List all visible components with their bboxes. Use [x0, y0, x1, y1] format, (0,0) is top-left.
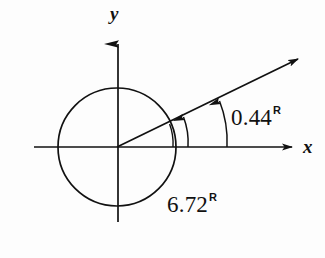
angle-diagram-figure: y x 0.44R 6.72R: [0, 0, 325, 258]
angle-arc-outer: [220, 101, 228, 147]
x-axis-label: x: [303, 137, 313, 156]
diagram-canvas: [0, 0, 325, 258]
angle-measure-unit: R: [273, 104, 281, 116]
y-axis-label: y: [110, 4, 118, 23]
terminal-side-ray: [117, 59, 298, 147]
coterminal-measure-unit: R: [209, 191, 217, 203]
angle-arc-inner: [184, 117, 189, 147]
angle-measure-value: 0.44: [231, 105, 272, 130]
angle-measure-label: 0.44R: [231, 106, 280, 129]
coterminal-measure-value: 6.72: [167, 192, 208, 217]
coterminal-measure-label: 6.72R: [167, 193, 216, 216]
